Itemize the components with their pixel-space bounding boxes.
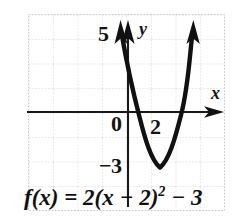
equation-tail: − 3	[165, 185, 202, 210]
equation-base: f(x) = 2(x − 2)	[24, 185, 158, 210]
y-axis-label: y	[139, 20, 147, 38]
function-equation: f(x) = 2(x − 2)2 − 3	[24, 186, 202, 209]
graph-figure: 5 y x 0 2 −3 f(x) = 2(x − 2)2 − 3	[0, 0, 233, 219]
x-tick-label-2: 2	[150, 116, 161, 138]
y-tick-label-5: 5	[98, 23, 109, 45]
origin-label: 0	[111, 113, 122, 135]
y-tick-label-neg3: −3	[99, 155, 122, 177]
x-axis-label: x	[211, 84, 220, 102]
